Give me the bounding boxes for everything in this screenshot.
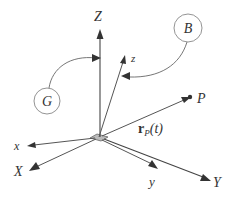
body-y-label: y	[147, 174, 155, 189]
body-x-axis	[27, 138, 95, 148]
g-to-z-curve	[49, 58, 96, 88]
b-to-z-curve	[129, 42, 187, 77]
point-p-label: P	[196, 91, 206, 106]
coordinate-frames-diagram: Z z G B P rP(t) x X y Y	[0, 0, 235, 198]
r-argument: (t)	[150, 121, 164, 137]
body-y-axis	[102, 140, 158, 169]
global-z-axis	[97, 29, 104, 137]
body-x-label: x	[13, 139, 20, 153]
position-vector-label: rP(t)	[138, 121, 163, 138]
global-x-label: X	[13, 164, 23, 179]
global-y-axis	[104, 139, 211, 181]
global-x-axis	[29, 139, 96, 171]
global-y-label: Y	[213, 175, 223, 190]
global-z-label: Z	[94, 9, 102, 24]
body-z-label: z	[130, 52, 136, 64]
b-curve-arrowhead	[121, 72, 130, 80]
frame-g-label: G	[42, 94, 52, 109]
body-z-axis	[99, 55, 126, 137]
frame-b-label: B	[184, 21, 193, 36]
